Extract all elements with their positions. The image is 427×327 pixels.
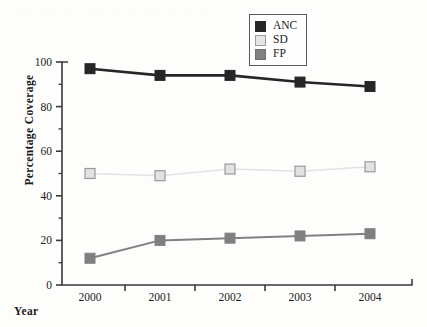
x-tick-label-2001: 2001 <box>133 291 187 303</box>
y-axis-tick-labels: 020406080100 <box>12 0 52 327</box>
x-tick-label-2000: 2000 <box>63 291 117 303</box>
y-tick-label-100: 100 <box>12 56 52 68</box>
data-point-fp-2004 <box>365 229 375 239</box>
legend-item-anc[interactable]: ANC <box>255 19 297 33</box>
legend-label: SD <box>273 34 288 46</box>
legend-item-fp[interactable]: FP <box>255 47 297 61</box>
plot-area <box>0 0 427 327</box>
y-tick-label-40: 40 <box>12 190 52 202</box>
chart-figure: · ·· · ·· · ··· · ·· Percentage Coverage… <box>0 0 427 327</box>
y-tick-label-80: 80 <box>12 101 52 113</box>
data-point-anc-2000 <box>85 64 95 74</box>
y-tick-label-0: 0 <box>12 279 52 291</box>
data-point-anc-2003 <box>295 77 305 87</box>
legend-item-sd[interactable]: SD <box>255 33 297 47</box>
data-point-anc-2002 <box>225 70 235 80</box>
data-point-anc-2001 <box>155 70 165 80</box>
y-tick-label-20: 20 <box>12 234 52 246</box>
data-point-anc-2004 <box>365 82 375 92</box>
data-point-sd-2001 <box>155 171 165 181</box>
legend-swatch-icon-sd <box>255 35 266 46</box>
legend-swatch-icon-fp <box>255 49 266 60</box>
x-tick-label-2003: 2003 <box>273 291 327 303</box>
data-point-sd-2000 <box>85 169 95 179</box>
data-point-fp-2001 <box>155 235 165 245</box>
x-tick-label-2002: 2002 <box>203 291 257 303</box>
chart-legend: ANCSDFP <box>249 14 307 66</box>
legend-label: ANC <box>273 20 297 32</box>
data-point-sd-2003 <box>295 166 305 176</box>
data-point-sd-2004 <box>365 162 375 172</box>
data-point-fp-2000 <box>85 253 95 263</box>
data-point-sd-2002 <box>225 164 235 174</box>
legend-label: FP <box>273 48 286 60</box>
data-point-fp-2002 <box>225 233 235 243</box>
x-tick-label-2004: 2004 <box>343 291 397 303</box>
legend-swatch-icon-anc <box>255 21 266 32</box>
y-tick-label-60: 60 <box>12 145 52 157</box>
data-point-fp-2003 <box>295 231 305 241</box>
